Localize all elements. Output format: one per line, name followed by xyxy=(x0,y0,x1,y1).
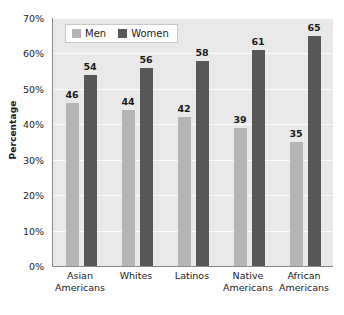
x-axis-label-line: Asian xyxy=(52,270,108,282)
bar-value-label: 61 xyxy=(251,36,264,47)
x-axis-label-line: Americans xyxy=(220,282,276,294)
bar-value-label: 42 xyxy=(177,103,190,114)
bar-men-2[interactable]: 42 xyxy=(178,117,191,266)
bar-group: 4258 xyxy=(165,18,221,266)
x-axis-label-0: AsianAmericans xyxy=(52,270,108,294)
bar-women-1[interactable]: 56 xyxy=(140,68,153,266)
y-axis-tick-label: 0% xyxy=(0,261,44,272)
y-axis-tick-labels: 70%60%50%40%30%20%10%0% xyxy=(0,0,48,315)
x-axis-label-line: Whites xyxy=(108,270,164,282)
bar-men-3[interactable]: 39 xyxy=(234,128,247,266)
x-axis-label-1: Whites xyxy=(108,270,164,294)
legend-label: Men xyxy=(85,28,106,39)
bar-value-label: 65 xyxy=(307,22,320,33)
y-axis-tick-label: 30% xyxy=(0,154,44,165)
bar-group: 4456 xyxy=(109,18,165,266)
plot-area: 46544456425839613565 MenWomen xyxy=(52,18,333,267)
x-axis-label-4: AfricanAmericans xyxy=(276,270,332,294)
y-axis-tick-label: 50% xyxy=(0,83,44,94)
legend-label: Women xyxy=(131,28,169,39)
bar-value-label: 58 xyxy=(195,47,208,58)
bar-value-label: 56 xyxy=(139,54,152,65)
bar-men-0[interactable]: 46 xyxy=(66,103,79,266)
x-axis-label-2: Latinos xyxy=(164,270,220,294)
chart-legend: MenWomen xyxy=(65,24,178,43)
bar-group: 3565 xyxy=(277,18,333,266)
legend-swatch-icon xyxy=(118,29,127,38)
x-axis-label-line: Americans xyxy=(52,282,108,294)
bar-chart: Percentage 70%60%50%40%30%20%10%0% 46544… xyxy=(0,0,344,315)
bar-value-label: 44 xyxy=(121,96,134,107)
legend-item-men[interactable]: Men xyxy=(72,28,106,39)
x-axis-label-3: NativeAmericans xyxy=(220,270,276,294)
y-axis-tick-label: 20% xyxy=(0,190,44,201)
bar-women-3[interactable]: 61 xyxy=(252,50,265,266)
x-axis-label-line: Latinos xyxy=(164,270,220,282)
legend-item-women[interactable]: Women xyxy=(118,28,169,39)
y-axis-tick-label: 60% xyxy=(0,48,44,59)
bar-value-label: 54 xyxy=(83,61,96,72)
legend-swatch-icon xyxy=(72,29,81,38)
x-axis-label-line: Americans xyxy=(276,282,332,294)
y-axis-tick-label: 70% xyxy=(0,13,44,24)
bar-value-label: 39 xyxy=(233,114,246,125)
x-axis-label-line: African xyxy=(276,270,332,282)
bar-women-2[interactable]: 58 xyxy=(196,61,209,266)
bar-women-4[interactable]: 65 xyxy=(308,36,321,266)
bar-men-1[interactable]: 44 xyxy=(122,110,135,266)
bar-value-label: 35 xyxy=(289,128,302,139)
bar-group: 4654 xyxy=(53,18,109,266)
y-axis-tick-label: 10% xyxy=(0,225,44,236)
bar-men-4[interactable]: 35 xyxy=(290,142,303,266)
x-axis-label-line: Native xyxy=(220,270,276,282)
y-axis-tick-label: 40% xyxy=(0,119,44,130)
x-axis-category-labels: AsianAmericansWhitesLatinosNativeAmerica… xyxy=(52,270,332,294)
bar-value-label: 46 xyxy=(65,89,78,100)
bars-layer: 46544456425839613565 xyxy=(53,18,333,266)
bar-group: 3961 xyxy=(221,18,277,266)
bar-women-0[interactable]: 54 xyxy=(84,75,97,266)
